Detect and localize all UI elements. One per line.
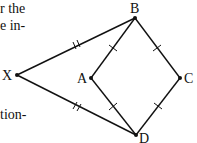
point-d (134, 133, 138, 137)
point-a (89, 76, 93, 80)
segment-xb (17, 18, 135, 75)
geometry-figure: X A B C D (0, 0, 197, 143)
label-x: X (2, 68, 12, 83)
label-c: C (184, 71, 193, 86)
point-c (178, 76, 182, 80)
label-d: D (139, 131, 149, 143)
label-a: A (77, 71, 88, 86)
point-b (133, 16, 137, 20)
label-b: B (130, 1, 139, 16)
point-x (15, 73, 19, 77)
